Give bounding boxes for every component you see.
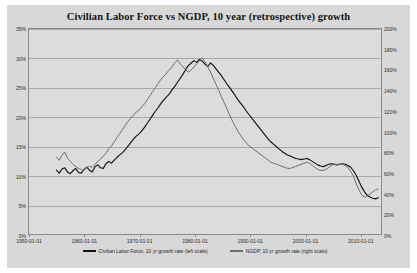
y-axis-left-tick: 10% [16,174,26,180]
x-axis-tickmark [84,234,85,237]
x-axis-tickmark [361,234,362,237]
x-axis-tick: 1980-01-01 [182,238,208,244]
x-axis-tick: 2010-01-01 [348,238,374,244]
y-axis-right-tick: 160% [384,67,397,73]
chart-container: Civilian Labor Force vs NGDP, 10 year (r… [7,5,410,268]
x-axis-tick: 1950-01-01 [16,238,42,244]
legend-item[interactable]: NGDP, 10 yr growth rate (right scale) [230,248,328,254]
legend-item[interactable]: Civilian Labor Force, 10 yr growth rate … [83,248,208,254]
y-axis-right-tick: 120% [384,109,397,115]
y-axis-left-tick: 15% [16,144,26,150]
y-axis-left-tick: 35% [16,26,26,32]
x-axis-tickmark [140,234,141,237]
y-axis-right-tick: 200% [384,26,397,32]
y-axis-right-tick: 0% [384,233,391,239]
y-axis-left-tick: 20% [16,115,26,121]
y-axis-right-tick: 140% [384,88,397,94]
y-axis-right-tick: 180% [384,47,397,53]
x-axis-tick: 1970-01-01 [127,238,153,244]
series-plot [29,29,381,234]
chart-legend: Civilian Labor Force, 10 yr growth rate … [28,248,382,254]
x-axis-tickmark [250,234,251,237]
series-line [57,58,379,197]
series-line [57,59,379,198]
y-axis-left-tick: 25% [16,85,26,91]
y-axis-right-tick: 100% [384,130,397,136]
x-axis-tick: 1960-01-01 [72,238,98,244]
x-axis-tick: 1990-01-01 [237,238,263,244]
legend-line-icon [83,250,96,252]
legend-label: Civilian Labor Force, 10 yr growth rate … [99,248,208,254]
legend-line-icon [230,250,243,252]
plot-area: 0%5%10%15%20%25%30%35% 0%20%40%60%80%100… [28,28,382,235]
x-axis-tickmark [29,234,30,237]
x-axis-tickmark [195,234,196,237]
x-axis-tick: 2000-01-01 [293,238,319,244]
y-axis-right-tick: 80% [384,150,394,156]
y-axis-right-tick: 40% [384,192,394,198]
chart-title: Civilian Labor Force vs NGDP, 10 year (r… [7,11,410,22]
y-axis-right-tick: 20% [384,212,394,218]
y-axis-left-tick: 5% [19,203,26,209]
x-axis-tickmark [306,234,307,237]
y-axis-right-tick: 60% [384,171,394,177]
y-axis-left-tick: 30% [16,56,26,62]
legend-label: NGDP, 10 yr growth rate (right scale) [246,248,328,254]
